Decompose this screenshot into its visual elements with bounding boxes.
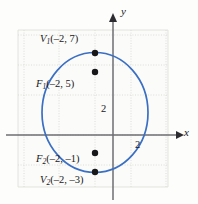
ellipse-figure: V1(–2, 7) F1(–2, 5) F2(–2, –1) V2(–2, –3… (0, 0, 198, 204)
y-axis-tick-label-2: 2 (101, 104, 106, 115)
label-v2-coords: (–2, –3) (50, 174, 83, 185)
point-f2 (92, 150, 98, 156)
label-point-f1: F1(–2, 5) (36, 79, 74, 91)
point-v2 (92, 169, 98, 175)
label-v1-coords: (–2, 7) (50, 33, 78, 44)
label-f1-coords: (–2, 5) (46, 78, 74, 89)
label-point-v2: V2(–2, –3) (40, 175, 83, 187)
label-point-v1: V1(–2, 7) (40, 34, 78, 46)
plot-canvas (0, 0, 198, 204)
y-axis-label: y (121, 6, 126, 17)
label-f2-coords: (–2, –1) (46, 153, 79, 164)
point-f1 (92, 69, 98, 75)
point-v1 (92, 50, 98, 56)
x-axis-label: x (184, 127, 189, 138)
label-point-f2: F2(–2, –1) (36, 154, 79, 166)
x-axis-tick-label-2: 2 (135, 140, 140, 151)
